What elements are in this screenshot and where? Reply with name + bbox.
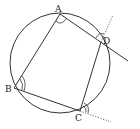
label-b: B: [5, 84, 12, 94]
side-ad-extended: [60, 14, 128, 61]
side-ab: [14, 14, 60, 88]
label-a: A: [54, 4, 62, 14]
label-c: C: [75, 113, 82, 123]
side-cd: [80, 42, 101, 111]
label-d: D: [103, 36, 110, 46]
angle-arc-a: [56, 19, 66, 23]
side-bc: [14, 88, 80, 111]
bc-extension-dotted: [80, 111, 111, 122]
angle-arc-b-inner: [20, 79, 23, 90]
cyclic-quadrilateral-diagram: A B C D: [0, 0, 140, 129]
